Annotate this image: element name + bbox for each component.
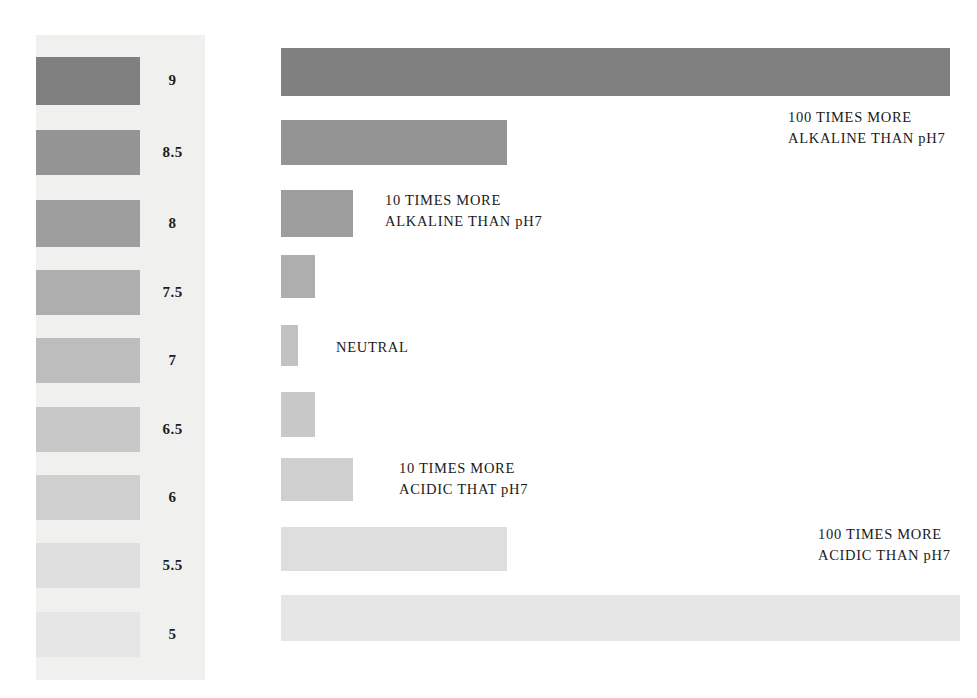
bar-ph-9 [281, 48, 950, 96]
annotation-alkaline-100: 100 TIMES MOREALKALINE THAN pH7 [788, 107, 945, 148]
annotation-acidic-100: 100 TIMES MOREACIDIC THAN pH7 [818, 524, 951, 565]
bar-ph-6.5 [281, 392, 315, 437]
annotation-line-1: 100 TIMES MORE [818, 524, 951, 545]
bar-ph-8.5 [281, 120, 507, 165]
annotation-acidic-10: 10 TIMES MOREACIDIC THAT pH7 [399, 458, 528, 499]
annotation-alkaline-10: 10 TIMES MOREALKALINE THAN pH7 [385, 190, 542, 231]
annotation-line-1: 10 TIMES MORE [399, 458, 528, 479]
bar-ph-7 [281, 325, 298, 366]
annotation-neutral: NEUTRAL [336, 337, 409, 358]
annotation-line-2: ALKALINE THAN pH7 [385, 211, 542, 232]
bar-ph-7.5 [281, 255, 315, 298]
bar-ph-5 [281, 595, 960, 641]
annotation-line-2: ALKALINE THAN pH7 [788, 128, 945, 149]
ph-bars-area [0, 0, 977, 698]
annotation-line-2: ACIDIC THAN pH7 [818, 545, 951, 566]
annotation-line-1: 10 TIMES MORE [385, 190, 542, 211]
bar-ph-5.5 [281, 527, 507, 571]
bar-ph-8 [281, 190, 353, 237]
ph-scale-chart: 98.587.576.565.55 100 TIMES MOREALKALINE… [0, 0, 977, 698]
annotation-line-1: 100 TIMES MORE [788, 107, 945, 128]
annotation-line-2: ACIDIC THAT pH7 [399, 479, 528, 500]
annotation-line-1: NEUTRAL [336, 337, 409, 358]
bar-ph-6 [281, 458, 353, 501]
